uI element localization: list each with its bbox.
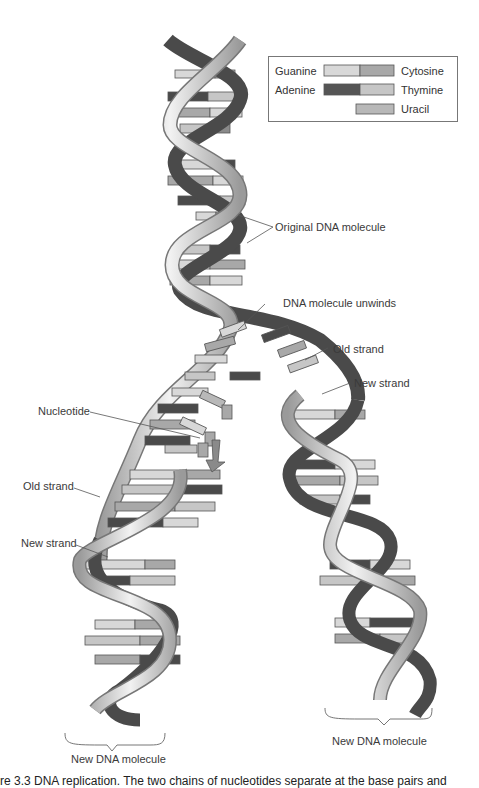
label-new-molecule-left: New DNA molecule	[71, 753, 166, 765]
label-old-strand-left: Old strand	[23, 480, 74, 492]
brace-left	[65, 733, 165, 751]
legend-uracil: Uracil	[401, 103, 429, 115]
legend-adenine: Adenine	[275, 84, 315, 96]
legend-box: Guanine Cytosine Adenine Thymine Uracil	[268, 56, 458, 122]
legend-cytosine: Cytosine	[401, 65, 444, 77]
label-new-molecule-right: New DNA molecule	[332, 735, 427, 747]
label-unwinds: DNA molecule unwinds	[283, 297, 396, 309]
label-nucleotide: Nucleotide	[38, 405, 90, 417]
legend-guanine: Guanine	[275, 65, 317, 77]
label-new-strand-left: New strand	[21, 537, 77, 549]
label-old-strand-right: Old strand	[333, 343, 384, 355]
label-original-dna: Original DNA molecule	[275, 221, 386, 233]
figure-caption: re 3.3 DNA replication. The two chains o…	[0, 774, 447, 788]
label-new-strand-right: New strand	[354, 377, 410, 389]
legend-thymine: Thymine	[401, 84, 443, 96]
